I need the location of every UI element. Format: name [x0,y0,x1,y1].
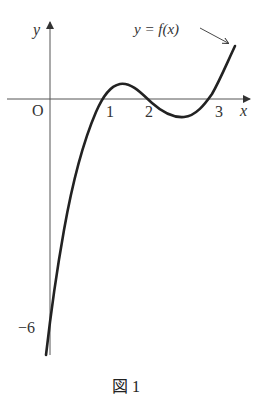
curve-label: y = f(x) [134,22,179,37]
x-tick-2: 2 [145,104,153,120]
label-leader-arrow [200,28,228,43]
function-curve [46,46,235,355]
y-tick-neg6: −6 [18,320,35,336]
x-axis-label: x [240,103,247,119]
y-axis-label: y [33,22,40,38]
graph-canvas [0,0,258,414]
x-tick-1: 1 [106,104,114,120]
figure-caption: 図 1 [112,373,140,397]
x-tick-3: 3 [215,104,223,120]
origin-label: O [32,103,44,119]
